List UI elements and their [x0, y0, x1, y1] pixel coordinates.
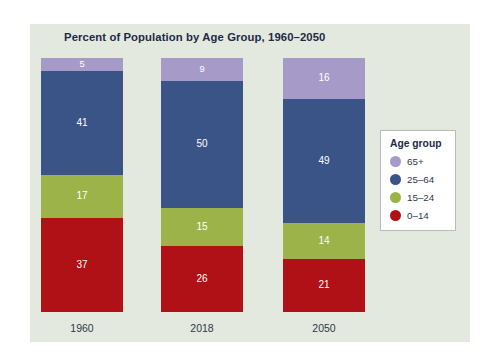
bar-segment-value: 41	[76, 118, 87, 128]
bar-segment-65plus[interactable]: 5	[41, 58, 123, 71]
bar-segment-value: 9	[199, 65, 204, 74]
legend-title: Age group	[390, 138, 447, 149]
x-axis-tick-2050: 2050	[283, 322, 365, 334]
bar-segment-25-64[interactable]: 41	[41, 71, 123, 175]
bar-segment-value: 5	[79, 60, 84, 69]
bar-segment-65plus[interactable]: 16	[283, 58, 365, 99]
legend-item-label: 65+	[407, 156, 424, 167]
bar-segment-25-64[interactable]: 50	[161, 81, 243, 208]
legend-item-15-24[interactable]: 15–24	[390, 191, 447, 204]
legend-item-label: 15–24	[407, 192, 434, 203]
bar-segment-value: 16	[318, 73, 329, 83]
plot-area: 5 41 17 37 9 50 15 26	[30, 24, 470, 342]
chart-panel: Percent of Population by Age Group, 1960…	[30, 24, 470, 342]
legend-swatch-icon	[390, 156, 401, 167]
bar-segment-value: 26	[196, 274, 207, 284]
legend-item-label: 0–14	[407, 210, 429, 221]
legend-item-0-14[interactable]: 0–14	[390, 209, 447, 222]
legend-item-25-64[interactable]: 25–64	[390, 173, 447, 186]
bar-segment-15-24[interactable]: 15	[161, 208, 243, 246]
bar-segment-value: 37	[76, 260, 87, 270]
bar-segment-value: 21	[318, 280, 329, 290]
bar-segment-value: 49	[318, 156, 329, 166]
bar-segment-0-14[interactable]: 37	[41, 218, 123, 312]
bar-segment-value: 15	[196, 222, 207, 232]
x-axis-tick-1960: 1960	[41, 322, 123, 334]
stacked-bar-2050[interactable]: 16 49 14 21	[283, 58, 365, 312]
legend-swatch-icon	[390, 192, 401, 203]
legend-swatch-icon	[390, 174, 401, 185]
legend-swatch-icon	[390, 210, 401, 221]
stacked-bar-2018[interactable]: 9 50 15 26	[161, 58, 243, 312]
bar-segment-0-14[interactable]: 26	[161, 246, 243, 312]
bar-segment-25-64[interactable]: 49	[283, 99, 365, 223]
stacked-bar-1960[interactable]: 5 41 17 37	[41, 58, 123, 312]
x-axis-tick-2018: 2018	[161, 322, 243, 334]
bar-segment-15-24[interactable]: 14	[283, 223, 365, 259]
bar-segment-15-24[interactable]: 17	[41, 175, 123, 218]
bar-segment-65plus[interactable]: 9	[161, 58, 243, 81]
bar-segment-0-14[interactable]: 21	[283, 259, 365, 312]
bar-segment-value: 50	[196, 139, 207, 149]
legend-item-65plus[interactable]: 65+	[390, 155, 447, 168]
legend-item-label: 25–64	[407, 174, 434, 185]
bar-segment-value: 14	[318, 236, 329, 246]
legend: Age group 65+ 25–64 15–24 0–14	[380, 130, 456, 231]
bar-segment-value: 17	[76, 191, 87, 201]
